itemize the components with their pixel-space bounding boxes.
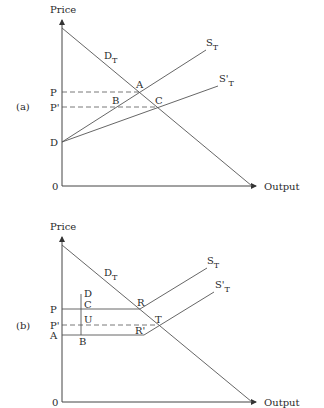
supply-prime-curve — [62, 86, 218, 142]
point-u-label: U — [84, 314, 92, 325]
point-b-label: B — [79, 336, 86, 347]
price-p-label: P — [50, 87, 57, 98]
price-a-label: A — [49, 330, 58, 341]
point-c-label: C — [84, 299, 92, 310]
point-a-label: A — [135, 79, 144, 90]
price-p-prime-label: P' — [50, 102, 59, 113]
price-d-label: D — [50, 137, 58, 148]
demand-label: DT — [104, 267, 118, 282]
y-axis-label: Price — [50, 221, 76, 232]
demand-label: DT — [104, 50, 118, 65]
supply-curve — [62, 50, 206, 142]
point-c-label: C — [155, 95, 163, 106]
supply-label: ST — [206, 37, 219, 52]
supply-prime-label: S'T — [219, 73, 235, 88]
origin-label: 0 — [52, 397, 58, 408]
supply-prime-label: S'T — [215, 279, 231, 294]
panel-label: (b) — [16, 320, 30, 331]
point-r-label: R — [137, 297, 145, 308]
supply-label: ST — [207, 255, 220, 270]
panel-a: Price Output 0 (a) DT ST S'T P P' D A B … — [16, 4, 300, 192]
x-axis-label: Output — [264, 397, 300, 408]
panel-b: Price Output 0 (b) DT ST S'T P P' A D C … — [16, 221, 300, 408]
price-p-label: P — [50, 304, 57, 315]
origin-label: 0 — [52, 181, 58, 192]
y-axis-label: Price — [50, 4, 76, 15]
point-b-label: B — [112, 95, 119, 106]
point-t-label: T — [155, 314, 162, 325]
x-axis-label: Output — [264, 181, 300, 192]
point-d-label: D — [84, 288, 92, 299]
point-r-prime-label: R' — [135, 325, 145, 336]
supply-demand-diagram: Price Output 0 (a) DT ST S'T P P' D A B … — [0, 0, 324, 408]
panel-label: (a) — [16, 101, 30, 112]
